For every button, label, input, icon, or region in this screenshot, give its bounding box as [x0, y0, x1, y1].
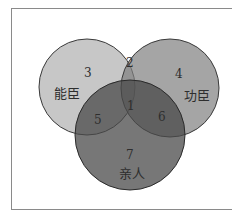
- region-1-label: 1: [127, 99, 135, 113]
- set-label-qin-ren: 亲人: [119, 166, 145, 181]
- set-label-neng-chen: 能臣: [54, 86, 80, 101]
- region-4-label: 4: [175, 67, 183, 81]
- region-3-label: 3: [84, 66, 92, 80]
- region-2-label: 2: [126, 56, 134, 70]
- region-7-label: 7: [126, 148, 134, 162]
- region-6-label: 6: [158, 110, 166, 124]
- region-5-label: 5: [94, 113, 102, 127]
- set-label-gong-chen: 功臣: [184, 88, 210, 103]
- venn-diagram: 3 能臣 2 4 功臣 1 5 6 7 亲人: [0, 0, 232, 220]
